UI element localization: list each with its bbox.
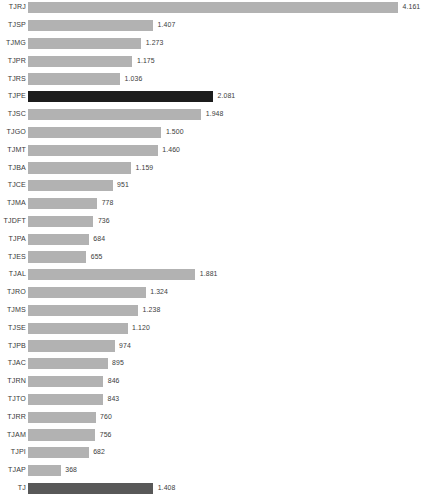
bar-area: 655 <box>28 251 430 262</box>
bar-area: 1.175 <box>28 56 430 67</box>
bar-tjpb <box>28 340 115 351</box>
bar-tjac <box>28 358 108 369</box>
bar-row: TJRR760 <box>0 408 430 426</box>
bar-row: TJAL1.881 <box>0 266 430 284</box>
bar-tjpr <box>28 56 132 67</box>
bar-value-label: 2.081 <box>218 93 236 100</box>
category-label: TJCE <box>0 182 26 189</box>
bar-area: 974 <box>28 340 430 351</box>
bar-tjap <box>28 465 61 476</box>
bar-row: TJMG1.273 <box>0 35 430 53</box>
bar-value-label: 736 <box>98 218 110 225</box>
bar-area: 1.881 <box>28 269 430 280</box>
bar-value-label: 1.036 <box>125 76 143 83</box>
bar-row: TJRJ4.161 <box>0 0 430 17</box>
bar-value-label: 843 <box>107 396 119 403</box>
bar-value-label: 1.407 <box>158 22 176 29</box>
bar-tjal <box>28 269 195 280</box>
bar-value-label: 368 <box>65 467 77 474</box>
bar-area: 736 <box>28 216 430 227</box>
bar-area: 843 <box>28 394 430 405</box>
bar-tjba <box>28 162 131 173</box>
category-label: TJPE <box>0 93 26 100</box>
bar-area: 1.407 <box>28 20 430 31</box>
category-label: TJRO <box>0 289 26 296</box>
category-label: TJRS <box>0 76 26 83</box>
bar-value-label: 846 <box>108 378 120 385</box>
bar-tj <box>28 483 153 494</box>
bar-value-label: 1.948 <box>206 111 224 118</box>
category-label: TJRJ <box>0 4 26 11</box>
bar-area: 1.036 <box>28 73 430 84</box>
bar-row: TJRO1.324 <box>0 284 430 302</box>
category-label: TJAP <box>0 467 26 474</box>
bar-value-label: 684 <box>93 236 105 243</box>
bar-tjse <box>28 323 128 334</box>
bar-value-label: 756 <box>100 432 112 439</box>
bar-area: 684 <box>28 234 430 245</box>
category-label: TJAC <box>0 360 26 367</box>
category-label: TJTO <box>0 396 26 403</box>
bar-tjdft <box>28 216 93 227</box>
category-label: TJMG <box>0 40 26 47</box>
bar-row: TJPB974 <box>0 337 430 355</box>
bar-value-label: 1.500 <box>166 129 184 136</box>
bar-area: 1.273 <box>28 38 430 49</box>
bar-tjma <box>28 198 97 209</box>
bar-tjpa <box>28 234 89 245</box>
bar-area: 846 <box>28 376 430 387</box>
category-label: TJPR <box>0 58 26 65</box>
bar-row: TJMS1.238 <box>0 302 430 320</box>
bar-tjmg <box>28 38 141 49</box>
category-label: TJES <box>0 254 26 261</box>
bar-row: TJRN846 <box>0 373 430 391</box>
category-label: TJMA <box>0 200 26 207</box>
bar-tjes <box>28 251 86 262</box>
bar-area: 1.324 <box>28 287 430 298</box>
bar-row: TJMA778 <box>0 195 430 213</box>
bar-area: 760 <box>28 412 430 423</box>
bar-row: TJSP1.407 <box>0 17 430 35</box>
bar-area: 1.500 <box>28 127 430 138</box>
bar-tjms <box>28 305 138 316</box>
category-label: TJRR <box>0 414 26 421</box>
bar-row: TJAM756 <box>0 426 430 444</box>
bar-row: TJAP368 <box>0 462 430 480</box>
bar-area: 2.081 <box>28 91 430 102</box>
bar-row: TJAC895 <box>0 355 430 373</box>
bar-value-label: 1.324 <box>150 289 168 296</box>
bar-area: 1.120 <box>28 323 430 334</box>
category-label: TJMS <box>0 307 26 314</box>
bar-value-label: 1.120 <box>132 325 150 332</box>
bar-area: 1.159 <box>28 162 430 173</box>
bar-row: TJSE1.120 <box>0 319 430 337</box>
bar-value-label: 778 <box>102 200 114 207</box>
bar-tjce <box>28 180 113 191</box>
bar-tjam <box>28 429 95 440</box>
bar-tjgo <box>28 127 161 138</box>
bar-row: TJES655 <box>0 248 430 266</box>
bar-row: TJBA1.159 <box>0 159 430 177</box>
category-label: TJ <box>0 485 26 492</box>
bar-area: 4.161 <box>28 2 430 13</box>
bar-value-label: 655 <box>91 254 103 261</box>
category-label: TJDFT <box>0 218 26 225</box>
bar-area: 1.460 <box>28 145 430 156</box>
bar-value-label: 974 <box>119 343 131 350</box>
category-label: TJMT <box>0 147 26 154</box>
bar-value-label: 1.238 <box>143 307 161 314</box>
category-label: TJGO <box>0 129 26 136</box>
bar-area: 756 <box>28 429 430 440</box>
bar-value-label: 1.159 <box>136 165 154 172</box>
bar-value-label: 760 <box>100 414 112 421</box>
bar-tjrn <box>28 376 103 387</box>
bar-row: TJTO843 <box>0 391 430 409</box>
bar-area: 895 <box>28 358 430 369</box>
bar-value-label: 682 <box>93 449 105 456</box>
bar-area: 778 <box>28 198 430 209</box>
category-label: TJPA <box>0 236 26 243</box>
bar-area: 368 <box>28 465 430 476</box>
bar-tjsc <box>28 109 201 120</box>
category-label: TJAM <box>0 432 26 439</box>
bar-value-label: 1.273 <box>146 40 164 47</box>
